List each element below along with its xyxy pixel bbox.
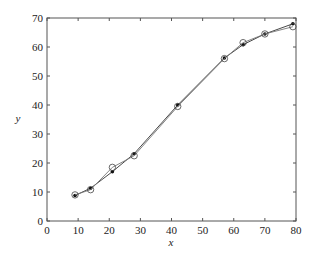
x-tick-label: 70	[259, 224, 271, 236]
x-tick-label: 60	[228, 224, 240, 236]
x-tick-label: 10	[73, 224, 85, 236]
line-chart: 01020304050607080010203040506070 x y	[0, 0, 318, 267]
y-tick-label: 10	[32, 186, 44, 198]
x-tick-label: 20	[104, 224, 116, 236]
plot-axes: 01020304050607080010203040506070	[32, 12, 302, 236]
series-line	[75, 24, 293, 196]
plot-frame	[47, 18, 296, 221]
y-tick-label: 50	[32, 70, 44, 82]
plot-series	[72, 22, 296, 198]
series-line	[75, 27, 293, 195]
y-tick-label: 20	[32, 157, 44, 169]
y-tick-label: 0	[38, 215, 44, 227]
x-tick-label: 40	[166, 224, 178, 236]
y-tick-label: 30	[32, 128, 44, 140]
x-tick-label: 30	[135, 224, 147, 236]
x-tick-label: 50	[197, 224, 209, 236]
y-tick-label: 60	[32, 41, 44, 53]
x-tick-label: 0	[44, 224, 50, 236]
y-axis-label: y	[15, 112, 21, 124]
y-tick-label: 70	[32, 12, 44, 24]
x-tick-label: 80	[291, 224, 303, 236]
y-tick-label: 40	[32, 99, 44, 111]
x-axis-label: x	[168, 236, 174, 248]
